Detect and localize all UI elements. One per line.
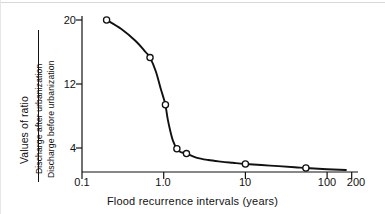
axis-lines xyxy=(82,16,358,172)
y-axis-ticks xyxy=(76,20,82,148)
data-point xyxy=(147,55,153,61)
data-point xyxy=(103,17,109,23)
x-axis-ticks xyxy=(82,172,352,179)
data-point xyxy=(162,102,168,108)
plot-area xyxy=(0,0,385,214)
data-point xyxy=(174,146,180,152)
data-point xyxy=(242,161,248,167)
data-point xyxy=(303,165,309,171)
data-curve xyxy=(107,20,346,170)
figure: Values of ratio Discharge after urbaniza… xyxy=(0,0,385,214)
data-point xyxy=(183,151,189,157)
